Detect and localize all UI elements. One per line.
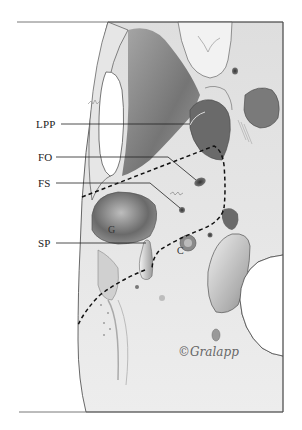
label-fs: FS [38,177,51,189]
label-sp: SP [38,237,51,249]
label-c: C [177,245,184,256]
glenoid-fossa [92,192,157,244]
label-lpp: LPP [36,118,56,130]
label-g: G [108,224,115,235]
skull-base-illustration [0,0,302,430]
artist-signature: ©Gralapp [178,345,239,359]
label-fo: FO [38,151,52,163]
